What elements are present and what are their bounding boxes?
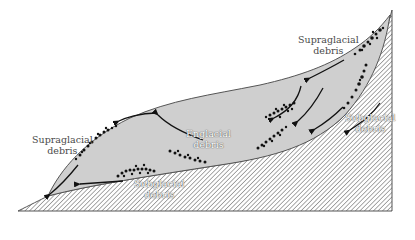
label-englacial: Englacial debris (186, 128, 231, 150)
label-supraglacial-lower: Supraglacial debris (32, 134, 93, 156)
label-subglacial-right: Subglacial debris (345, 112, 396, 134)
label-subglacial-lower: Subglacial debris (134, 178, 185, 200)
label-supraglacial-upper: Supraglacial debris (298, 34, 359, 56)
